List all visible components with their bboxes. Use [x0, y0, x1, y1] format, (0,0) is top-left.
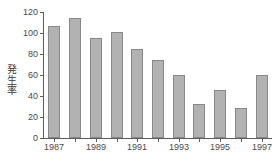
- y-axis-title-char-3: 率: [6, 86, 18, 97]
- bar: [256, 75, 268, 138]
- bar: [48, 26, 60, 138]
- x-axis-tick-label: 1989: [86, 143, 106, 152]
- x-axis-tick-label: 1995: [210, 143, 230, 152]
- y-axis-tick-label: 20: [28, 113, 38, 122]
- y-axis-tick-label: 100: [23, 29, 38, 38]
- y-axis-tick-label: 80: [28, 50, 38, 59]
- x-axis-tick-label: 1993: [169, 143, 189, 152]
- y-axis-tick-label: 120: [23, 8, 38, 17]
- bar: [90, 38, 102, 138]
- y-axis-tick-label: 60: [28, 71, 38, 80]
- y-axis-tick-mark: [40, 75, 44, 76]
- chart-figure: 発 生 率 020406080100120 198719891991199319…: [0, 0, 276, 162]
- bar: [235, 108, 247, 138]
- bar: [193, 104, 205, 138]
- y-axis-tick-label: 40: [28, 92, 38, 101]
- bar: [214, 90, 226, 138]
- y-axis-tick-mark: [40, 138, 44, 139]
- bar: [173, 75, 185, 138]
- y-axis-tick-mark: [40, 54, 44, 55]
- y-axis-tick-mark: [40, 33, 44, 34]
- x-axis-tick-label: 1997: [252, 143, 272, 152]
- x-axis-tick-label: 1987: [44, 143, 64, 152]
- x-axis-tick-mark: [158, 138, 159, 142]
- plot-area: 020406080100120: [44, 12, 272, 138]
- x-axis-tick-mark: [241, 138, 242, 142]
- x-axis-tick-mark: [199, 138, 200, 142]
- y-axis-tick-label: 0: [33, 134, 38, 143]
- bar: [69, 18, 81, 138]
- x-axis-tick-mark: [75, 138, 76, 142]
- bar: [152, 60, 164, 138]
- x-axis-tick-label: 1991: [127, 143, 147, 152]
- y-axis-tick-mark: [40, 12, 44, 13]
- bar: [131, 49, 143, 138]
- bar: [111, 32, 123, 138]
- y-axis-tick-mark: [40, 96, 44, 97]
- y-axis-title-char-1: 発: [6, 65, 18, 76]
- x-axis-tick-mark: [117, 138, 118, 142]
- y-axis-title: 発 生 率: [6, 65, 18, 97]
- y-axis-tick-mark: [40, 117, 44, 118]
